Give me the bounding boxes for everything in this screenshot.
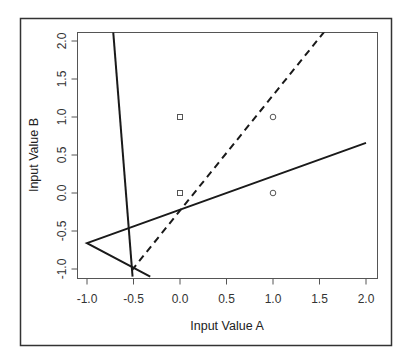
y-tick-label: 1.0 (55, 108, 69, 125)
chart: -1.0-0.50.00.51.01.52.0 -1.0-0.50.00.51.… (0, 0, 410, 363)
square-marker (178, 115, 183, 120)
circle-marker (270, 114, 276, 120)
x-tick-label: 1.5 (311, 292, 328, 306)
y-tick-label: 0.0 (55, 184, 69, 201)
y-tick-label: 0.5 (55, 146, 69, 163)
x-tick-label: -1.0 (77, 292, 98, 306)
x-tick-label: 0.5 (218, 292, 235, 306)
y-tick-label: 2.0 (55, 32, 69, 49)
near-vertical-boundary-line (113, 30, 133, 277)
y-tick-label: -1.0 (55, 258, 69, 279)
circle-marker (270, 190, 276, 196)
y-axis-label: Input Value B (27, 118, 41, 192)
x-axis: -1.0-0.50.00.51.01.52.0 (77, 279, 375, 306)
boundary-lines (87, 30, 366, 277)
x-tick-label: -0.5 (123, 292, 144, 306)
x-axis-label: Input Value A (190, 319, 264, 333)
x-tick-label: 1.0 (265, 292, 282, 306)
y-tick-label: 1.5 (55, 70, 69, 87)
x-tick-label: 0.0 (172, 292, 189, 306)
dashed-boundary-line (132, 30, 326, 271)
boundary-polyline-line (87, 143, 366, 277)
y-tick-label: -0.5 (55, 220, 69, 241)
y-axis: -1.0-0.50.00.51.01.52.0 (55, 32, 78, 279)
square-marker (178, 191, 183, 196)
data-points (178, 114, 276, 196)
x-tick-label: 2.0 (358, 292, 375, 306)
